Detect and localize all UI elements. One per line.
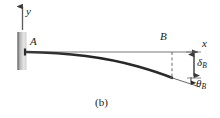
delta-subscript: B (202, 61, 207, 70)
x-axis-label: x (202, 38, 207, 49)
beam-curve (26, 52, 172, 78)
deflection-label: δB (197, 57, 207, 69)
deflected-beam (25, 49, 172, 78)
point-a-label: A (30, 36, 37, 47)
figure-caption: (b) (95, 97, 108, 108)
point-b-label: B (160, 31, 167, 42)
slope-angle-label: θB (196, 78, 206, 90)
theta-subscript: B (201, 82, 206, 91)
beam-deflection-figure (0, 0, 220, 118)
y-axis-label: y (26, 6, 31, 17)
